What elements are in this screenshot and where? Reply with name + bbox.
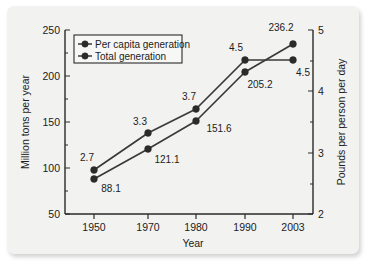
left-tick-label-100: 100	[42, 162, 60, 174]
right-axis-title: Pounds per person per day	[335, 58, 347, 185]
left-axis-ticks: 250 200 150 100 50	[42, 24, 70, 220]
x-axis-title: Year	[182, 237, 204, 249]
total-generation-marker-1950	[91, 176, 98, 183]
right-tick-label-3: 3	[318, 147, 324, 159]
left-axis-title: Million tons per year	[19, 75, 31, 169]
total-generation-marker-1970	[145, 146, 152, 153]
legend-label-total: Total generation	[95, 51, 166, 62]
series-per-capita-generation	[91, 57, 297, 174]
left-tick-label-200: 200	[42, 70, 60, 82]
total-generation-marker-1980	[193, 118, 200, 125]
x-tick-label-1990: 1990	[233, 221, 257, 233]
chart-card: 250 200 150 100 50 5 4 3 2	[7, 6, 359, 254]
per-capita-generation-line	[94, 60, 293, 170]
legend-marker-per-capita	[82, 41, 88, 47]
x-axis-ticks: 1950 1970 1980 1990 2003	[82, 214, 305, 233]
right-axis-ticks: 5 4 3 2	[308, 24, 324, 220]
per-capita-marker-2003	[290, 57, 297, 64]
total-label-1950: 88.1	[101, 183, 121, 194]
total-label-1990: 205.2	[247, 79, 272, 90]
x-tick-label-1970: 1970	[136, 221, 160, 233]
chart-plot-area: 250 200 150 100 50 5 4 3 2	[7, 6, 359, 254]
per-capita-label-2003: 4.5	[296, 67, 310, 78]
x-tick-label-1950: 1950	[82, 221, 106, 233]
legend-label-per-capita: Per capita generation	[95, 39, 190, 50]
total-generation-marker-1990	[242, 69, 249, 76]
legend-marker-total	[82, 53, 88, 59]
per-capita-label-1950: 2.7	[80, 152, 94, 163]
right-tick-label-2: 2	[318, 208, 324, 220]
left-tick-label-150: 150	[42, 116, 60, 128]
total-label-2003: 236.2	[268, 22, 293, 33]
right-tick-label-5: 5	[318, 24, 324, 36]
per-capita-marker-1990	[242, 57, 249, 64]
total-generation-marker-2003	[290, 41, 297, 48]
total-label-1970: 121.1	[154, 154, 179, 165]
legend-item-per-capita-generation[interactable]: Per capita generation	[78, 39, 190, 50]
x-tick-label-1980: 1980	[184, 221, 208, 233]
per-capita-marker-1980	[193, 106, 200, 113]
per-capita-marker-1970	[145, 130, 152, 137]
per-capita-label-1980: 3.7	[182, 91, 196, 102]
chart-legend[interactable]: Per capita generation Total generation	[74, 35, 190, 63]
total-label-1980: 151.6	[206, 123, 231, 134]
x-tick-label-2003: 2003	[281, 221, 305, 233]
per-capita-marker-1950	[91, 167, 98, 174]
per-capita-label-1990: 4.5	[229, 42, 243, 53]
per-capita-label-1970: 3.3	[133, 116, 147, 127]
right-tick-label-4: 4	[318, 85, 324, 97]
left-tick-label-250: 250	[42, 24, 60, 36]
line-chart-svg: 250 200 150 100 50 5 4 3 2	[7, 6, 359, 254]
left-tick-label-50: 50	[48, 208, 60, 220]
